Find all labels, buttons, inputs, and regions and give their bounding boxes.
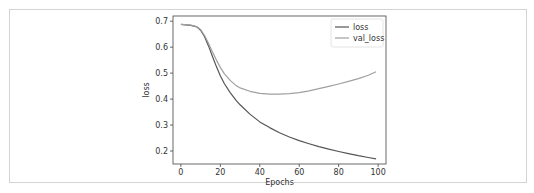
loss-chart: 0204060801000.20.30.40.50.60.7Epochsloss… xyxy=(0,0,534,193)
y-tick-label: 0.3 xyxy=(155,121,168,130)
legend-label-val-loss: val_loss xyxy=(353,34,384,43)
x-tick-label: 20 xyxy=(215,168,225,177)
y-tick-label: 0.2 xyxy=(155,147,168,156)
x-axis-label: Epochs xyxy=(265,178,294,187)
y-tick-label: 0.5 xyxy=(155,69,168,78)
legend-label-loss: loss xyxy=(353,23,368,32)
x-tick-label: 100 xyxy=(370,168,385,177)
x-tick-label: 40 xyxy=(255,168,265,177)
x-tick-label: 0 xyxy=(178,168,183,177)
x-tick-label: 60 xyxy=(294,168,304,177)
x-tick-label: 80 xyxy=(334,168,344,177)
legend: lossval_loss xyxy=(331,19,384,47)
y-tick-label: 0.7 xyxy=(155,17,168,26)
y-tick-label: 0.6 xyxy=(155,43,168,52)
y-axis-label: loss xyxy=(142,82,151,97)
y-tick-label: 0.4 xyxy=(155,95,168,104)
